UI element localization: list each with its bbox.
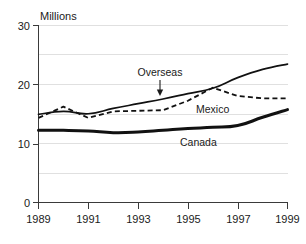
y-tick-label-0: 0 (24, 197, 30, 209)
y-axis-title: Millions (40, 10, 77, 22)
canada-label: Canada (180, 136, 217, 148)
y-tick-marks (33, 26, 38, 203)
y-tick-label-30: 30 (18, 20, 30, 32)
x-tick-label-1991: 1991 (76, 213, 100, 225)
x-tick-label-1989: 1989 (26, 213, 50, 225)
x-tick-label-1999: 1999 (275, 213, 299, 225)
mexico-label: Mexico (196, 103, 229, 115)
chart-canvas: Millions 30 20 10 0 1989 1991 1993 1995 … (0, 0, 306, 244)
x-tick-marks (39, 203, 288, 209)
line-chart: Millions 30 20 10 0 1989 1991 1993 1995 … (0, 0, 306, 244)
y-tick-label-20: 20 (18, 79, 30, 91)
x-tick-label-1995: 1995 (176, 213, 200, 225)
y-tick-label-10: 10 (18, 138, 30, 150)
x-tick-label-1997: 1997 (226, 213, 250, 225)
x-tick-label-1993: 1993 (126, 213, 150, 225)
overseas-label: Overseas (138, 66, 183, 78)
